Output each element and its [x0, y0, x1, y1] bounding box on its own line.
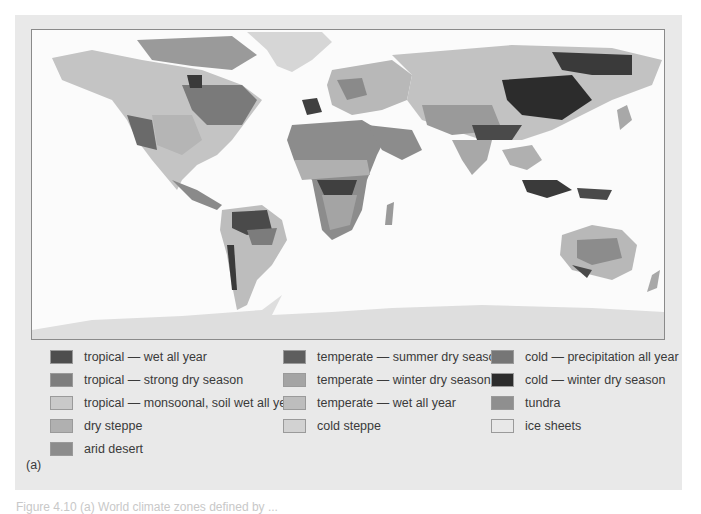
legend-label: temperate — winter dry season	[317, 373, 491, 387]
legend-label: tropical — wet all year	[84, 350, 207, 364]
legend-item-temperate-summer-dry: temperate — summer dry season	[283, 348, 503, 366]
legend-label: cold — precipitation all year	[525, 350, 679, 364]
legend-swatch	[50, 442, 73, 456]
figure-label: (a)	[26, 458, 41, 472]
legend-label: dry steppe	[84, 419, 142, 433]
legend-swatch	[50, 396, 73, 410]
legend-item-tropical-monsoonal: tropical — monsoonal, soil wet all year	[50, 394, 297, 412]
legend-item-temperate-wet: temperate — wet all year	[283, 394, 456, 412]
legend-item-ice-sheets: ice sheets	[491, 417, 581, 435]
legend-label: ice sheets	[525, 419, 581, 433]
legend-swatch	[491, 373, 514, 387]
legend: tropical — wet all year tropical — stron…	[48, 345, 688, 485]
legend-swatch	[491, 419, 514, 433]
legend-swatch	[50, 419, 73, 433]
legend-item-tundra: tundra	[491, 394, 560, 412]
legend-swatch	[50, 350, 73, 364]
map-graphic	[32, 30, 665, 340]
legend-item-temperate-winter-dry: temperate — winter dry season	[283, 371, 491, 389]
legend-swatch	[283, 419, 306, 433]
legend-item-cold-steppe: cold steppe	[283, 417, 381, 435]
figure-caption: Figure 4.10 (a) World climate zones defi…	[16, 500, 278, 514]
legend-swatch	[491, 350, 514, 364]
legend-swatch	[283, 373, 306, 387]
legend-item-dry-steppe: dry steppe	[50, 417, 142, 435]
legend-item-arid-desert: arid desert	[50, 440, 143, 458]
legend-label: tropical — monsoonal, soil wet all year	[84, 396, 297, 410]
legend-swatch	[50, 373, 73, 387]
legend-swatch	[283, 350, 306, 364]
legend-label: temperate — wet all year	[317, 396, 456, 410]
legend-label: cold — winter dry season	[525, 373, 665, 387]
legend-label: temperate — summer dry season	[317, 350, 503, 364]
legend-swatch	[491, 396, 514, 410]
legend-label: tropical — strong dry season	[84, 373, 243, 387]
legend-swatch	[283, 396, 306, 410]
world-climate-map	[31, 29, 665, 340]
legend-item-tropical-wet: tropical — wet all year	[50, 348, 207, 366]
legend-item-cold-winter-dry: cold — winter dry season	[491, 371, 665, 389]
legend-label: arid desert	[84, 442, 143, 456]
legend-label: tundra	[525, 396, 560, 410]
legend-item-cold-precip: cold — precipitation all year	[491, 348, 679, 366]
legend-label: cold steppe	[317, 419, 381, 433]
legend-item-tropical-strong-dry: tropical — strong dry season	[50, 371, 243, 389]
